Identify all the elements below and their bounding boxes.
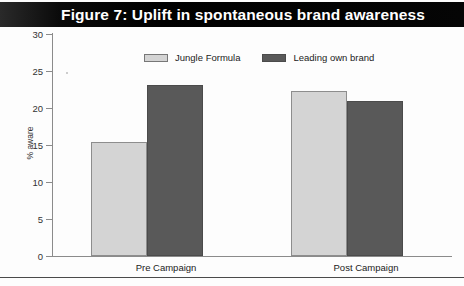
- x-axis-category-label: Post Campaign: [334, 262, 399, 273]
- y-axis-tick-mark: [46, 182, 52, 183]
- legend-label: Jungle Formula: [175, 52, 240, 63]
- y-axis-tick-mark: [46, 145, 52, 146]
- plot-area: 302520151050: [52, 34, 452, 256]
- y-axis-tick-mark: [46, 71, 52, 72]
- bar-post-campaign-leading-own-brand: [347, 101, 403, 256]
- y-axis-tick-mark: [46, 256, 52, 257]
- chart-legend: Jungle Formula Leading own brand: [144, 52, 374, 63]
- y-axis-tick-label: 25: [32, 66, 43, 77]
- legend-swatch-icon: [144, 54, 168, 62]
- y-axis-tick-label: 0: [38, 251, 43, 262]
- x-axis-category-label: Pre Campaign: [136, 262, 197, 273]
- legend-swatch-icon: [262, 54, 286, 62]
- figure-container: Figure 7: Uplift in spontaneous brand aw…: [0, 0, 464, 286]
- legend-label: Leading own brand: [293, 52, 374, 63]
- y-axis-tick-mark: [46, 219, 52, 220]
- y-axis-tick-label: 20: [32, 103, 43, 114]
- y-axis-tick-label: 15: [32, 140, 43, 151]
- page-title: Figure 7: Uplift in spontaneous brand aw…: [39, 6, 425, 24]
- y-axis-tick-label: 10: [32, 177, 43, 188]
- y-axis-tick-mark: [46, 108, 52, 109]
- y-axis-tick-label: 5: [38, 214, 43, 225]
- bar-pre-campaign-jungle-formula: [91, 142, 147, 256]
- y-axis-tick-label: 30: [32, 29, 43, 40]
- legend-item-leading-own-brand: Leading own brand: [262, 52, 374, 63]
- figure-title-bar: Figure 7: Uplift in spontaneous brand aw…: [0, 2, 464, 27]
- bar-pre-campaign-leading-own-brand: [147, 85, 203, 256]
- legend-item-jungle-formula: Jungle Formula: [144, 52, 240, 63]
- bar-post-campaign-jungle-formula: [291, 91, 347, 256]
- x-axis-line: [52, 256, 452, 257]
- y-axis-tick-mark: [46, 34, 52, 35]
- footer-divider: [0, 277, 464, 278]
